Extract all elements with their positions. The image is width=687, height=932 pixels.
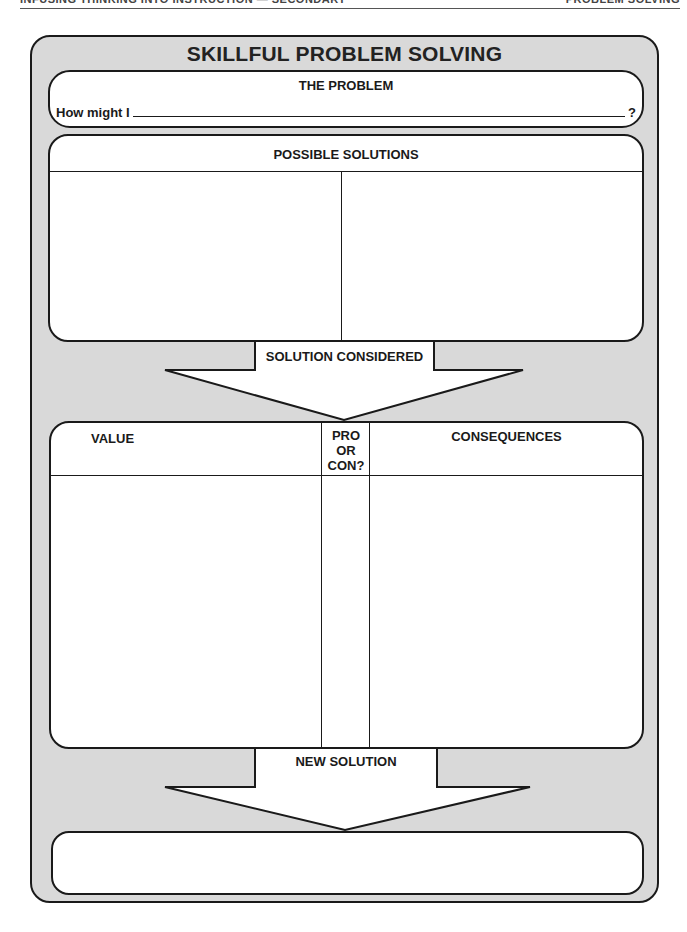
new-solution-box[interactable] (51, 831, 644, 895)
down-arrow-icon (0, 0, 687, 932)
new-solution-label: NEW SOLUTION (255, 754, 437, 769)
